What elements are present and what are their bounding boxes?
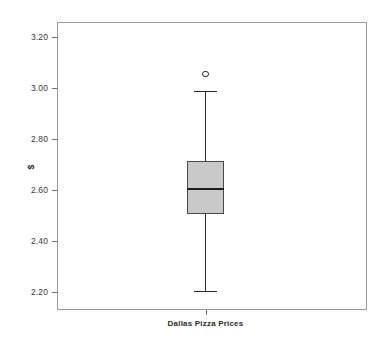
y-axis-tick-label: 3.20 — [31, 32, 52, 42]
y-axis-tick-label: 2.40 — [31, 236, 52, 246]
y-axis-tick-label: 2.60 — [31, 185, 52, 195]
y-axis-tick-label: 2.80 — [31, 134, 52, 144]
x-axis-tick-mark — [206, 310, 207, 315]
y-axis-title: $ — [16, 152, 46, 182]
y-axis-tick-label: 2.20 — [31, 287, 52, 297]
y-axis-tick: 2.60 — [0, 184, 57, 196]
x-axis-label: Dallas Pizza Prices — [126, 319, 286, 328]
upper-whisker-line — [205, 91, 207, 161]
y-axis-tick: 3.00 — [0, 82, 57, 94]
y-axis-tick: 2.40 — [0, 235, 57, 247]
y-axis-tick-mark — [52, 190, 57, 191]
boxplot-chart: $ 3.203.002.802.602.402.20 Dallas Pizza … — [0, 0, 383, 339]
lower-whisker-cap — [194, 291, 217, 293]
y-axis-tick-mark — [52, 37, 57, 38]
median-line — [187, 188, 224, 190]
y-axis-tick-mark — [52, 88, 57, 89]
upper-whisker-cap — [194, 91, 217, 93]
y-axis-tick: 2.80 — [0, 133, 57, 145]
y-axis-tick-mark — [52, 241, 57, 242]
lower-whisker-line — [205, 214, 207, 290]
y-axis-tick-label: 3.00 — [31, 83, 52, 93]
y-axis-tick-mark — [52, 292, 57, 293]
y-axis-tick-mark — [52, 139, 57, 140]
y-axis-tick: 3.20 — [0, 31, 57, 43]
y-axis-tick: 2.20 — [0, 286, 57, 298]
